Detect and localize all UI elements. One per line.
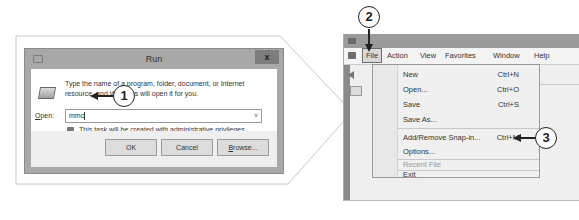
run-dialog: Run x Type the name of a program, folder…: [24, 48, 284, 174]
menu-item-exit[interactable]: Exit: [397, 171, 539, 181]
mmc-app-icon: [348, 38, 356, 44]
step-1-marker: 1: [113, 85, 135, 107]
step-2-marker: 2: [358, 6, 380, 28]
menu-item-open[interactable]: Open...Ctrl+O: [397, 83, 539, 96]
run-program-icon: [38, 87, 56, 99]
step-2-arrowhead: [365, 44, 373, 52]
step-1-arrow: [96, 95, 114, 97]
menu-item-new[interactable]: NewCtrl+N: [397, 68, 539, 81]
step-3-arrow: [520, 137, 536, 139]
chevron-down-icon[interactable]: ˅: [254, 110, 258, 122]
console-icon[interactable]: [348, 52, 356, 59]
menu-item-options[interactable]: Options...: [397, 145, 539, 158]
file-menu-dropdown: NewCtrl+N Open...Ctrl+O SaveCtrl+S Save …: [372, 64, 540, 178]
menubar: File Action View Favorites Window Help: [344, 48, 579, 65]
browse-button[interactable]: Browse...: [217, 139, 269, 156]
ok-button[interactable]: OK: [105, 139, 157, 156]
menu-action[interactable]: Action: [384, 49, 411, 62]
menu-separator: [397, 128, 539, 129]
mmc-titlebar: [344, 34, 579, 48]
menu-item-recent-file: Recent File: [397, 160, 539, 170]
step-1-arrowhead: [90, 92, 98, 100]
menu-view[interactable]: View: [417, 49, 439, 62]
menu-icon-gutter: [373, 65, 398, 177]
step-2-arrow: [368, 29, 370, 45]
open-label: Open:: [35, 112, 54, 119]
close-button[interactable]: x: [255, 50, 279, 64]
cancel-button[interactable]: Cancel: [161, 139, 213, 156]
menu-item-save-as[interactable]: Save As...: [397, 113, 539, 126]
run-dialog-body: Type the name of a program, folder, docu…: [31, 69, 277, 167]
back-arrow-icon[interactable]: [348, 71, 354, 79]
text-caret: [84, 112, 85, 120]
run-dialog-footer: OK Cancel Browse...: [31, 131, 277, 167]
menu-favorites[interactable]: Favorites: [442, 49, 479, 62]
open-input[interactable]: mmc˅: [65, 109, 262, 123]
step-3-marker: 3: [535, 127, 557, 149]
browse-label: rowse...: [233, 144, 258, 151]
menu-item-save[interactable]: SaveCtrl+S: [397, 98, 539, 111]
menu-window[interactable]: Window: [490, 49, 523, 62]
open-input-value: mmc: [69, 112, 84, 119]
menu-help[interactable]: Help: [531, 49, 552, 62]
open-label-text: pen:: [40, 112, 54, 119]
console-tree-icon: [350, 86, 362, 96]
run-dialog-title: Run: [25, 49, 283, 69]
